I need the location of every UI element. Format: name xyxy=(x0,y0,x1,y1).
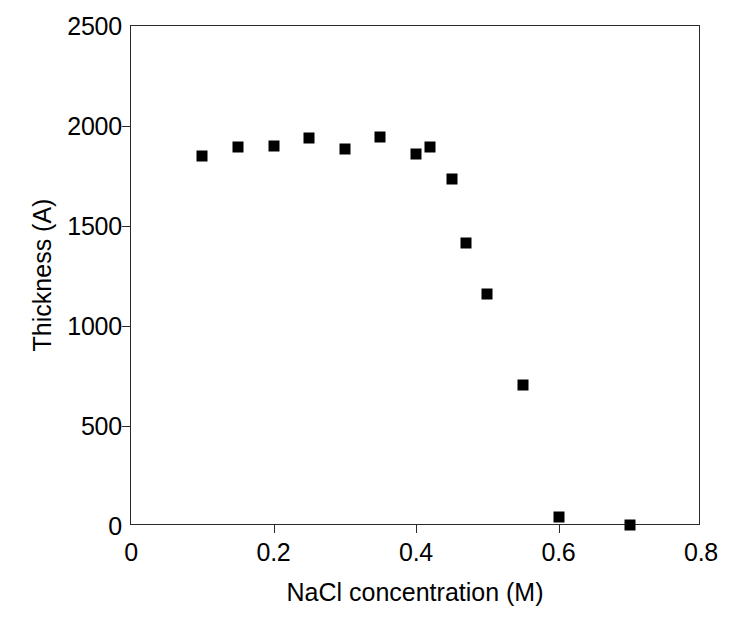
data-point xyxy=(375,132,386,143)
data-point xyxy=(339,144,350,155)
y-axis-title: Thickness (A) xyxy=(22,25,62,525)
y-tick-label: 1500 xyxy=(67,212,122,241)
y-tick-mark xyxy=(122,226,131,227)
x-tick-label: 0 xyxy=(124,538,138,567)
x-tick-label: 0.6 xyxy=(541,538,575,567)
data-point xyxy=(517,380,528,391)
y-tick-label: 2000 xyxy=(67,112,122,141)
chart-figure: Thickness (A) 0500100015002000250000.20.… xyxy=(0,0,739,627)
data-point xyxy=(232,142,243,153)
x-tick-mark xyxy=(559,524,560,533)
x-tick-mark xyxy=(274,524,275,533)
data-point xyxy=(446,174,457,185)
data-point xyxy=(411,149,422,160)
y-tick-label: 1000 xyxy=(67,312,122,341)
x-tick-mark xyxy=(416,524,417,533)
x-axis-title: NaCl concentration (M) xyxy=(130,578,700,607)
y-tick-label: 500 xyxy=(81,412,122,441)
x-tick-label: 0.8 xyxy=(684,538,718,567)
data-point xyxy=(268,141,279,152)
y-tick-mark xyxy=(122,426,131,427)
y-tick-label: 2500 xyxy=(67,12,122,41)
y-tick-mark xyxy=(122,126,131,127)
x-tick-label: 0.2 xyxy=(256,538,290,567)
y-tick-mark xyxy=(122,326,131,327)
y-tick-label: 0 xyxy=(108,512,122,541)
data-point xyxy=(197,151,208,162)
data-point xyxy=(460,238,471,249)
data-point xyxy=(553,512,564,523)
data-point xyxy=(482,289,493,300)
data-point xyxy=(624,520,635,531)
data-point xyxy=(304,133,315,144)
data-marker-layer xyxy=(131,26,699,524)
x-tick-label: 0.4 xyxy=(399,538,433,567)
data-point xyxy=(425,142,436,153)
plot-area: 0500100015002000250000.20.40.60.8 xyxy=(130,25,700,525)
